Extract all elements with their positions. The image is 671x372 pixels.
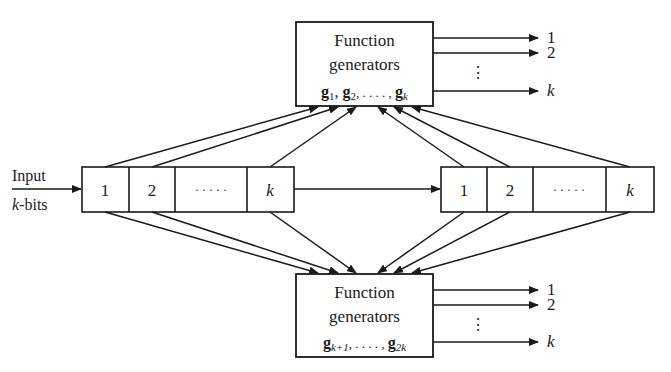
top-output-k: k	[547, 81, 555, 100]
generator-formula: g1, g2, . . . . , gk	[321, 83, 409, 102]
svg-text:k-bits: k-bits	[12, 196, 48, 213]
top-output-vdots: ⋮	[470, 64, 486, 81]
input-label: Input k-bits	[12, 167, 48, 213]
svg-text:generators: generators	[329, 55, 400, 74]
register-cell-dots: · · · · ·	[553, 183, 585, 197]
register-cell-dots: · · · · ·	[195, 183, 227, 197]
bottom-output-2: 2	[547, 295, 556, 314]
bottom-output-k: k	[547, 332, 555, 351]
arrows-to-top-generator	[105, 107, 630, 167]
arrows-to-bottom-generator	[105, 212, 630, 273]
register-cell-2: 2	[148, 181, 157, 200]
register-cell-1: 1	[460, 181, 469, 200]
bottom-function-generator: Function generators gk+1, . . . . , g2k	[296, 274, 433, 357]
svg-text:generators: generators	[329, 307, 400, 326]
right-shift-register: 1 2 · · · · · k	[441, 167, 654, 212]
left-shift-register: 1 2 · · · · · k	[82, 167, 294, 212]
register-cell-1: 1	[101, 181, 110, 200]
register-cell-k: k	[626, 181, 634, 200]
top-output-2: 2	[547, 43, 556, 62]
register-cell-2: 2	[506, 181, 515, 200]
bottom-output-vdots: ⋮	[470, 316, 486, 333]
top-function-generator: Function generators g1, g2, . . . . , gk	[296, 22, 433, 106]
svg-text:Function: Function	[334, 31, 395, 50]
svg-text:Function: Function	[334, 283, 395, 302]
register-cell-k: k	[266, 181, 274, 200]
shift-register-encoder-diagram: Input k-bits 1 2 · · · · · k 1 2 · · · ·…	[0, 0, 671, 372]
svg-text:Input: Input	[12, 167, 46, 185]
